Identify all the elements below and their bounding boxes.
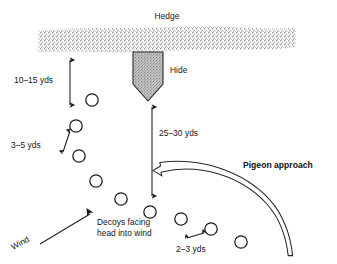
decoys-note-line2: head into wind xyxy=(97,228,152,238)
diagram-canvas: Hedge Hide 10–15 yds 3–5 yds 25–30 yds P… xyxy=(0,0,337,264)
hide-label: Hide xyxy=(170,65,188,75)
decoy-circle xyxy=(205,223,217,235)
decoy-circle xyxy=(115,193,127,205)
hedge-group xyxy=(38,27,296,53)
decoy-circle xyxy=(73,150,85,162)
distance-decoy-spacing-left-label: 3–5 yds xyxy=(11,140,41,150)
decoy-circle xyxy=(175,213,187,225)
wind-arrow xyxy=(40,214,90,244)
distance-decoy-spacing-right-arrow xyxy=(187,233,204,238)
distance-hedge-to-decoys-label: 10–15 yds xyxy=(14,75,53,85)
hide-group xyxy=(133,52,163,101)
distance-decoy-spacing-left-arrow xyxy=(63,131,70,152)
decoy-circle xyxy=(90,175,102,187)
distance-decoy-spacing-right-label: 2–3 yds xyxy=(176,244,206,254)
decoys-note-line1: Decoys facing xyxy=(97,217,151,227)
distance-hide-to-decoys-label: 25–30 yds xyxy=(159,128,198,138)
wind-label: Wind xyxy=(9,234,31,252)
pigeon-approach-label: Pigeon approach xyxy=(243,160,313,170)
decoy-circle xyxy=(86,94,98,106)
hide-shape xyxy=(133,52,163,101)
pigeon-approach-arrow xyxy=(153,161,293,255)
decoy-circle xyxy=(235,236,247,248)
pigeon-decoy-layout-diagram: Hedge Hide 10–15 yds 3–5 yds 25–30 yds P… xyxy=(0,0,337,264)
hedge-label: Hedge xyxy=(155,11,180,21)
decoy-circle xyxy=(70,120,82,132)
hedge-band xyxy=(38,27,296,53)
